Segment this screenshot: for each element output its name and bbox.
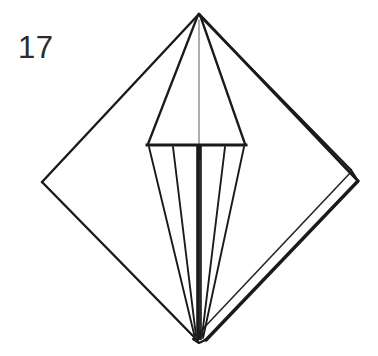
pleat-inner-left — [173, 147, 196, 336]
edge-upper-right-inner — [200, 16, 351, 170]
origami-diagram-page: 17 — [0, 0, 378, 356]
inner-triangle-group — [148, 15, 245, 144]
pleat-inner-right — [202, 147, 225, 336]
edge-upper-left — [42, 14, 199, 182]
pleat-outer-right — [203, 147, 244, 338]
inner-triangle-right-side — [200, 15, 245, 144]
edge-lower-right-outer — [206, 181, 358, 340]
pleat-outer-left — [149, 147, 195, 338]
origami-figure — [0, 0, 378, 356]
inner-triangle-left-side — [148, 15, 198, 144]
edge-lower-left — [42, 182, 198, 341]
